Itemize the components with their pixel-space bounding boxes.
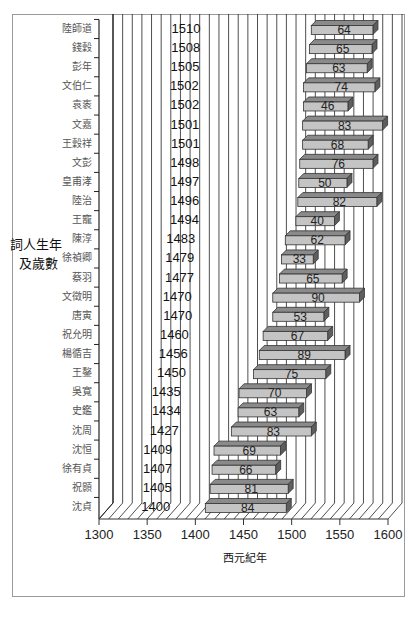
category-label: 王穀祥	[62, 137, 92, 149]
category-label: 沈貞	[72, 500, 92, 512]
category-label: 皇甫涍	[62, 175, 92, 187]
bar-age-label: 83	[338, 119, 352, 133]
birth-year-label: 1496	[170, 193, 199, 208]
birth-year-label: 1505	[171, 59, 200, 74]
category-label: 文伯仁	[62, 79, 92, 91]
category-label: 文嘉	[72, 118, 92, 130]
category-label: 錢穀	[72, 41, 92, 53]
x-axis-title: 西元紀年	[223, 551, 267, 565]
bar-age-label: 89	[297, 348, 311, 362]
bar-age-label: 40	[310, 214, 324, 228]
bar-age-label: 68	[331, 138, 345, 152]
birth-year-label: 1501	[171, 136, 200, 151]
category-label: 祝允明	[62, 328, 92, 340]
category-label: 楊循吉	[62, 347, 92, 359]
x-tick-label: 1600	[374, 527, 403, 542]
category-label: 陸師道	[62, 22, 92, 34]
category-label: 徐禎卿	[62, 251, 92, 263]
bar-age-label: 33	[293, 252, 307, 266]
birth-year-label: 1483	[166, 231, 195, 246]
birth-year-label: 1510	[172, 21, 201, 36]
birth-year-label: 1435	[152, 384, 181, 399]
bar-age-label: 50	[318, 176, 332, 190]
birth-year-label: 1477	[165, 270, 194, 285]
birth-year-label: 1427	[150, 423, 179, 438]
x-tick-label: 1400	[181, 527, 210, 542]
bar-age-label: 63	[332, 61, 346, 75]
category-label: 文彭	[72, 156, 92, 168]
bar-age-label: 53	[294, 310, 308, 324]
category-label: 史鑑	[72, 404, 92, 416]
category-label: 陳淳	[72, 232, 92, 244]
x-tick-label: 1350	[133, 527, 162, 542]
birth-year-label: 1409	[143, 442, 172, 457]
y-axis-title-line2: 及歲數	[19, 256, 58, 271]
category-label: 袁袠	[72, 98, 92, 110]
birth-year-label: 1470	[163, 289, 192, 304]
bar-age-label: 63	[264, 405, 278, 419]
bar-age-label: 66	[239, 463, 253, 477]
y-axis-title-line1: 詞人生年	[10, 237, 62, 252]
bar-age-label: 64	[337, 23, 351, 37]
birth-year-label: 1494	[170, 212, 199, 227]
x-tick-label: 1300	[85, 527, 114, 542]
birth-year-label: 1460	[160, 327, 189, 342]
birth-year-label: 1470	[163, 308, 192, 323]
bar-age-label: 83	[267, 425, 281, 439]
birth-year-label: 1479	[165, 250, 194, 265]
category-label: 唐寅	[72, 309, 92, 321]
birth-year-label: 1501	[170, 117, 199, 132]
x-tick-label: 1500	[277, 527, 306, 542]
birth-year-label: 1400	[141, 499, 170, 514]
birth-year-label: 1456	[159, 346, 188, 361]
bar-age-label: 76	[332, 157, 346, 171]
birth-year-label: 1498	[170, 155, 199, 170]
bar-age-label: 90	[311, 291, 325, 305]
x-tick-label: 1450	[229, 527, 258, 542]
timeline-bar-chart: 6415106515086315057415024615028315016815…	[0, 0, 411, 631]
category-labels: 陸師道錢穀彭年文伯仁袁袠文嘉王穀祥文彭皇甫涍陸治王寵陳淳徐禎卿蔡羽文徵明唐寅祝允…	[62, 19, 99, 519]
bar-age-label: 75	[285, 367, 299, 381]
bar-age-label: 84	[241, 501, 255, 515]
category-label: 祝顥	[72, 481, 92, 493]
bar-age-label: 62	[310, 233, 324, 247]
bar-age-label: 67	[291, 329, 305, 343]
bar-age-label: 70	[268, 386, 282, 400]
category-label: 文徵明	[62, 290, 92, 302]
birth-year-label: 1434	[152, 403, 181, 418]
bar-age-label: 65	[306, 272, 320, 286]
bars: 6415106515086315057415024615028315016815…	[141, 21, 387, 516]
birth-year-label: 1502	[170, 78, 199, 93]
category-label: 王寵	[72, 213, 92, 225]
birth-year-label: 1450	[157, 365, 186, 380]
birth-year-label: 1407	[143, 461, 172, 476]
category-label: 蔡羽	[72, 271, 92, 283]
bar-age-label: 81	[244, 482, 258, 496]
birth-year-label: 1497	[170, 174, 199, 189]
category-label: 彭年	[72, 60, 92, 72]
birth-year-label: 1405	[143, 480, 172, 495]
bar-age-label: 82	[333, 195, 347, 209]
x-axis: 1300135014001450150015501600	[85, 519, 403, 542]
bar-age-label: 46	[321, 99, 335, 113]
category-label: 徐有貞	[62, 462, 92, 474]
category-label: 吳寬	[72, 385, 92, 397]
category-label: 沈恒	[72, 443, 92, 455]
category-label: 沈周	[72, 424, 92, 436]
bar-age-label: 69	[243, 444, 257, 458]
category-label: 陸治	[72, 194, 92, 206]
x-tick-label: 1550	[325, 527, 354, 542]
birth-year-label: 1502	[170, 97, 199, 112]
category-label: 王鏊	[72, 366, 92, 378]
birth-year-label: 1508	[171, 40, 200, 55]
bar-age-label: 74	[335, 80, 349, 94]
bar-age-label: 65	[336, 42, 350, 56]
